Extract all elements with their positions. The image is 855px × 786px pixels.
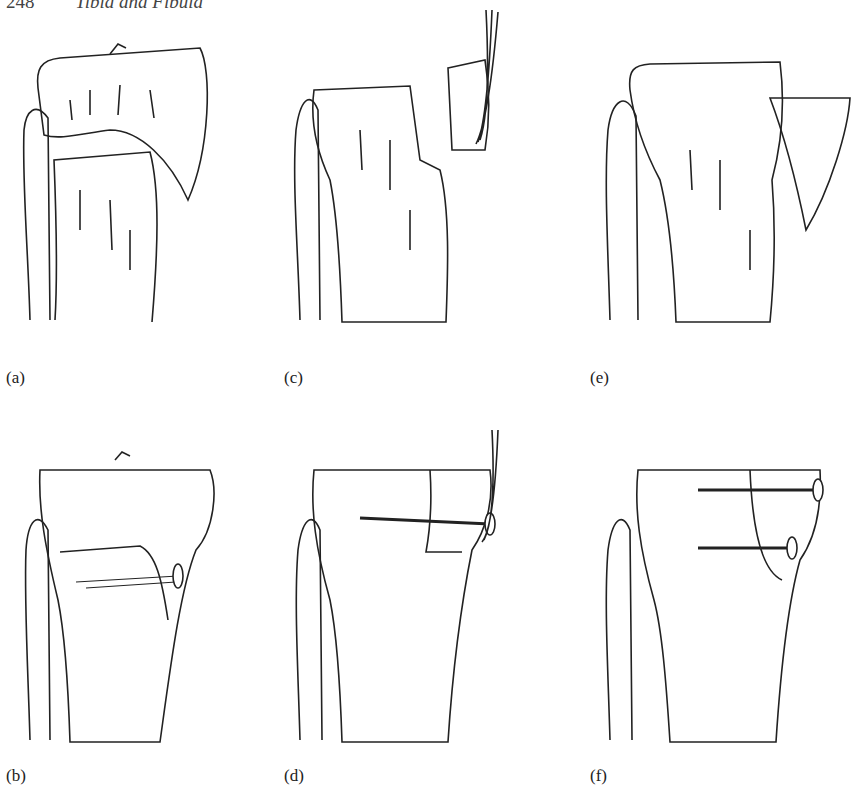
- figure-panel-c: [280, 10, 540, 340]
- running-title: Tibia and Fibula: [75, 0, 203, 12]
- panel-label-a: (a): [6, 368, 25, 388]
- panel-label-f: (f): [590, 766, 607, 786]
- running-header: 248 Tibia and Fibula: [6, 0, 203, 13]
- figure-panel-a: [0, 30, 260, 360]
- figure-panel-b: [0, 430, 260, 760]
- panel-label-c: (c): [284, 368, 303, 388]
- figure-panel-d: [280, 430, 540, 760]
- bone-drawing-d: [280, 430, 540, 760]
- figure-panel-e: [590, 30, 850, 360]
- figure-panel-f: [590, 430, 850, 760]
- page-number: 248: [6, 0, 35, 12]
- panel-label-e: (e): [590, 368, 609, 388]
- bone-drawing-e: [590, 30, 855, 360]
- bone-drawing-a: [0, 30, 260, 360]
- bone-drawing-b: [0, 430, 260, 760]
- panel-label-d: (d): [284, 766, 304, 786]
- bone-drawing-f: [590, 430, 855, 760]
- panel-label-b: (b): [6, 766, 26, 786]
- bone-drawing-c: [280, 10, 540, 340]
